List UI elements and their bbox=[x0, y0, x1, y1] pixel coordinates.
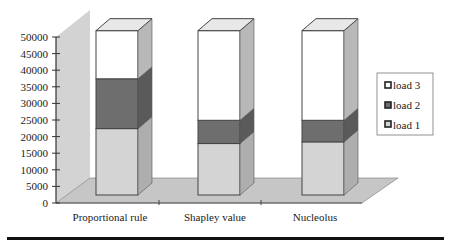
bar-segment-load-2 bbox=[198, 120, 240, 143]
bar-stack-nucleolus bbox=[302, 19, 358, 195]
bars-group bbox=[96, 19, 358, 195]
y-tick-label: 50000 bbox=[21, 31, 49, 43]
y-axis-ticks: 0500010000150002000025000300003500040000… bbox=[21, 31, 61, 209]
category-labels: Proportional ruleShapley valueNucleolus bbox=[73, 211, 338, 223]
legend: load 3 load 2 load 1 bbox=[377, 73, 433, 135]
y-tick-label: 20000 bbox=[21, 131, 49, 143]
y-tick-label: 40000 bbox=[21, 64, 49, 76]
bar-segment-load-2 bbox=[302, 120, 344, 142]
chart-back-wall bbox=[56, 10, 90, 203]
legend-swatch-load-2 bbox=[385, 102, 391, 108]
legend-label: load 3 bbox=[393, 79, 421, 91]
y-tick-label: 25000 bbox=[21, 114, 49, 126]
y-tick-label: 30000 bbox=[21, 97, 49, 109]
bar-segment-load-1 bbox=[96, 129, 138, 195]
bar-stack-shapley-value bbox=[198, 19, 254, 195]
y-tick-label: 0 bbox=[43, 197, 49, 209]
bar-stack-proportional-rule bbox=[96, 19, 152, 195]
x-category-label: Proportional rule bbox=[73, 211, 148, 223]
bar-segment-load-1 bbox=[198, 144, 240, 195]
legend-label: load 2 bbox=[393, 99, 420, 111]
bar-segment-load-1 bbox=[302, 142, 344, 195]
bar-side-load-3 bbox=[240, 19, 254, 121]
stacked-column-chart: 0500010000150002000025000300003500040000… bbox=[0, 0, 453, 242]
legend-label: load 1 bbox=[393, 119, 420, 131]
bar-side-load-3 bbox=[344, 19, 358, 121]
bar-segment-load-3 bbox=[302, 31, 344, 121]
bar-side-load-1 bbox=[138, 117, 152, 195]
x-category-label: Nucleolus bbox=[293, 211, 338, 223]
legend-swatch-load-1 bbox=[385, 121, 391, 127]
y-tick-label: 35000 bbox=[21, 81, 49, 93]
y-tick-label: 15000 bbox=[21, 147, 49, 159]
y-tick-label: 10000 bbox=[21, 164, 49, 176]
legend-swatch-load-3 bbox=[385, 82, 391, 88]
bar-segment-load-3 bbox=[96, 31, 138, 79]
y-tick-label: 5000 bbox=[26, 180, 49, 192]
y-tick-label: 45000 bbox=[21, 48, 49, 60]
x-category-label: Shapley value bbox=[184, 211, 246, 223]
bar-segment-load-3 bbox=[198, 31, 240, 121]
bar-segment-load-2 bbox=[96, 79, 138, 129]
bottom-rule-divider bbox=[7, 237, 444, 240]
